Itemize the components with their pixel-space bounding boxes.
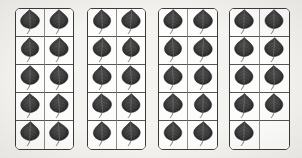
specimen-panel-2 bbox=[87, 8, 146, 150]
specimen-panel-3 bbox=[158, 8, 218, 150]
specimen-cell bbox=[159, 93, 188, 121]
specimen-cell bbox=[45, 65, 74, 93]
leaf-icon bbox=[90, 121, 114, 147]
leaf-icon bbox=[90, 65, 114, 91]
leaf-icon bbox=[262, 37, 286, 63]
leaf-icon bbox=[119, 93, 143, 119]
specimen-cell bbox=[230, 65, 260, 93]
specimen-cell bbox=[16, 93, 45, 121]
leaf-icon bbox=[161, 37, 185, 63]
leaf-icon bbox=[191, 121, 215, 147]
specimen-cell bbox=[117, 121, 146, 149]
leaf-icon bbox=[161, 93, 185, 119]
specimen-panel-4 bbox=[229, 8, 290, 150]
specimen-cell bbox=[230, 93, 260, 121]
specimen-cell bbox=[188, 9, 217, 37]
specimen-cell bbox=[88, 121, 117, 149]
specimen-cell bbox=[230, 121, 260, 149]
leaf-icon bbox=[232, 65, 256, 91]
specimen-cell bbox=[260, 37, 290, 65]
leaf-icon bbox=[262, 65, 286, 91]
specimen-cell bbox=[88, 37, 117, 65]
specimen-cell bbox=[16, 65, 45, 93]
specimen-grid-figure bbox=[0, 0, 302, 158]
specimen-cell bbox=[159, 121, 188, 149]
specimen-cell bbox=[188, 37, 217, 65]
specimen-cell-empty bbox=[260, 121, 290, 149]
leaf-icon bbox=[47, 65, 71, 91]
specimen-panel-1 bbox=[15, 8, 74, 150]
leaf-icon bbox=[18, 65, 42, 91]
specimen-cell bbox=[159, 9, 188, 37]
leaf-icon bbox=[18, 93, 42, 119]
leaf-icon bbox=[191, 9, 215, 35]
specimen-cell bbox=[117, 37, 146, 65]
leaf-icon bbox=[18, 121, 42, 147]
leaf-icon bbox=[47, 121, 71, 147]
leaf-icon bbox=[191, 37, 215, 63]
specimen-cell bbox=[88, 9, 117, 37]
specimen-cell bbox=[117, 65, 146, 93]
specimen-cell bbox=[188, 65, 217, 93]
specimen-cell bbox=[45, 9, 74, 37]
leaf-icon bbox=[119, 37, 143, 63]
leaf-icon bbox=[191, 93, 215, 119]
specimen-cell bbox=[230, 9, 260, 37]
leaf-icon bbox=[161, 121, 185, 147]
specimen-cell bbox=[45, 37, 74, 65]
specimen-cell bbox=[45, 121, 74, 149]
specimen-cell bbox=[16, 121, 45, 149]
specimen-cell bbox=[45, 93, 74, 121]
leaf-icon bbox=[262, 93, 286, 119]
specimen-cell bbox=[230, 37, 260, 65]
leaf-icon bbox=[47, 9, 71, 35]
specimen-cell bbox=[260, 9, 290, 37]
leaf-icon bbox=[18, 9, 42, 35]
leaf-icon bbox=[47, 93, 71, 119]
leaf-icon bbox=[47, 37, 71, 63]
leaf-icon bbox=[119, 65, 143, 91]
specimen-cell bbox=[188, 93, 217, 121]
leaf-icon bbox=[90, 93, 114, 119]
leaf-icon bbox=[232, 93, 256, 119]
leaf-icon bbox=[191, 65, 215, 91]
leaf-icon bbox=[119, 121, 143, 147]
specimen-cell bbox=[16, 37, 45, 65]
specimen-cell bbox=[260, 65, 290, 93]
leaf-icon bbox=[119, 9, 143, 35]
specimen-cell bbox=[260, 93, 290, 121]
leaf-icon bbox=[161, 65, 185, 91]
specimen-cell bbox=[159, 65, 188, 93]
leaf-icon bbox=[18, 37, 42, 63]
leaf-icon bbox=[232, 9, 256, 35]
specimen-cell bbox=[88, 65, 117, 93]
leaf-icon bbox=[161, 9, 185, 35]
specimen-cell bbox=[88, 93, 117, 121]
leaf-icon bbox=[262, 9, 286, 35]
specimen-cell bbox=[117, 93, 146, 121]
leaf-icon bbox=[90, 9, 114, 35]
leaf-icon bbox=[232, 121, 256, 147]
specimen-cell bbox=[117, 9, 146, 37]
specimen-cell bbox=[159, 37, 188, 65]
leaf-icon bbox=[232, 37, 256, 63]
leaf-icon bbox=[90, 37, 114, 63]
specimen-cell bbox=[188, 121, 217, 149]
specimen-cell bbox=[16, 9, 45, 37]
